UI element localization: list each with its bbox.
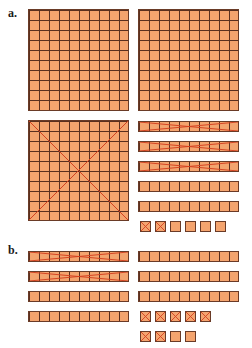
section-a-label: a. bbox=[8, 6, 17, 21]
cross-out-icon bbox=[156, 312, 165, 321]
ten-rod bbox=[138, 201, 239, 212]
cross-out-icon bbox=[141, 312, 150, 321]
one-cube bbox=[215, 221, 226, 232]
ten-rod-crossed bbox=[138, 121, 239, 132]
hundred-flat-crossed bbox=[28, 120, 129, 221]
one-cube-crossed bbox=[185, 311, 196, 322]
one-cube-crossed bbox=[155, 331, 166, 342]
ten-rod-crossed bbox=[28, 251, 129, 262]
hundred-flat bbox=[138, 9, 239, 111]
cross-out-icon bbox=[141, 222, 150, 231]
ten-rod bbox=[138, 181, 239, 192]
cross-out-icon bbox=[29, 252, 128, 261]
one-cube bbox=[170, 331, 181, 342]
one-cube bbox=[185, 331, 196, 342]
one-cube-crossed bbox=[140, 331, 151, 342]
cross-out-icon bbox=[156, 332, 165, 341]
one-cube-crossed bbox=[155, 221, 166, 232]
one-cube-crossed bbox=[140, 311, 151, 322]
cross-out-icon bbox=[139, 162, 238, 171]
one-cube bbox=[185, 221, 196, 232]
hundred-flat bbox=[28, 9, 129, 111]
cross-out-icon bbox=[171, 312, 180, 321]
ten-rod bbox=[28, 311, 129, 322]
ten-rod bbox=[138, 251, 239, 262]
cross-out-icon bbox=[141, 332, 150, 341]
one-cube bbox=[200, 221, 211, 232]
ten-rod bbox=[138, 291, 239, 302]
cross-out-icon bbox=[156, 222, 165, 231]
one-cube bbox=[170, 221, 181, 232]
ten-rod-crossed bbox=[138, 141, 239, 152]
one-cube-crossed bbox=[170, 311, 181, 322]
cross-out-icon bbox=[201, 312, 210, 321]
one-cube-crossed bbox=[140, 221, 151, 232]
ten-rod bbox=[28, 291, 129, 302]
cross-out-icon bbox=[139, 122, 238, 131]
cross-out-icon bbox=[29, 272, 128, 281]
cross-out-icon bbox=[186, 312, 195, 321]
cross-out-icon bbox=[29, 121, 128, 220]
cross-out-icon bbox=[139, 142, 238, 151]
ten-rod bbox=[138, 271, 239, 282]
ten-rod-crossed bbox=[138, 161, 239, 172]
ten-rod-crossed bbox=[28, 271, 129, 282]
one-cube-crossed bbox=[155, 311, 166, 322]
section-b-label: b. bbox=[8, 243, 18, 258]
one-cube-crossed bbox=[200, 311, 211, 322]
